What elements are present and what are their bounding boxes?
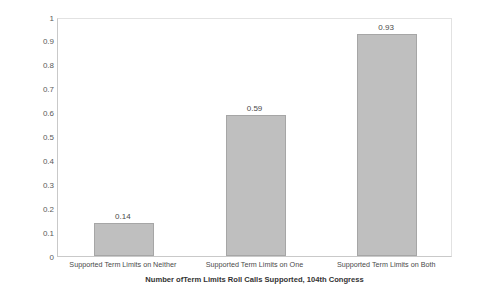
y-tick-label: 0.3 bbox=[4, 181, 54, 190]
bar bbox=[226, 115, 286, 256]
bar-value-label: 0.14 bbox=[83, 212, 163, 222]
y-axis-tick-labels: 1 0.9 0.8 0.7 0.6 0.5 0.4 0.3 0.2 0.1 0 bbox=[0, 0, 54, 291]
y-tick-label: 0.6 bbox=[4, 109, 54, 118]
y-tick-label: 0.2 bbox=[4, 205, 54, 214]
bar bbox=[357, 34, 417, 256]
x-axis-title: Number ofTerm Limits Roll Calls Supporte… bbox=[57, 274, 452, 285]
bar bbox=[94, 223, 154, 256]
y-tick-label: 0.4 bbox=[4, 157, 54, 166]
y-tick-label: 0.1 bbox=[4, 229, 54, 238]
y-tick-label: 0.8 bbox=[4, 61, 54, 70]
y-tick-label: 1 bbox=[4, 14, 54, 23]
y-tick-label: 0.5 bbox=[4, 133, 54, 142]
bar-value-label: 0.59 bbox=[215, 104, 295, 114]
y-tick-label: 0.7 bbox=[4, 85, 54, 94]
y-tick-label: 0.9 bbox=[4, 37, 54, 46]
bar-chart: Probability of Seat Remaining Republican… bbox=[0, 0, 491, 291]
bar-value-label: 0.93 bbox=[346, 23, 426, 33]
x-category-label: Supported Term Limits on Both bbox=[306, 260, 466, 270]
